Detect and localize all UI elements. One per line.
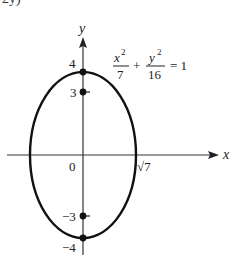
ellipse-graph: y x 0 4 3 −3 −4 √7 x 2 7 + y 2 16 = 1: [0, 0, 234, 263]
eq-y-exp: 2: [157, 47, 162, 57]
eq-x: x: [113, 50, 120, 65]
vertex-top-point: [80, 69, 87, 76]
y-axis-label: y: [77, 21, 86, 36]
x-intercept-label: √7: [137, 159, 151, 174]
y-label-neg4: −4: [62, 240, 76, 255]
y-label-3: 3: [70, 85, 77, 100]
focus-top-point: [80, 89, 87, 96]
eq-y-denom: 16: [148, 67, 162, 82]
vertex-bottom-point: [80, 235, 87, 242]
eq-equals: = 1: [170, 58, 187, 73]
eq-y: y: [147, 50, 155, 65]
ellipse-figure: 2y) y x 0 4 3 −3 −4 √7 x 2: [0, 0, 234, 263]
origin-label: 0: [69, 159, 76, 174]
y-label-neg3: −3: [62, 209, 76, 224]
y-label-4: 4: [69, 56, 76, 71]
focus-bottom-point: [80, 213, 87, 220]
eq-x-exp: 2: [121, 47, 126, 57]
eq-x-denom: 7: [117, 67, 124, 82]
eq-plus: +: [133, 58, 140, 73]
ellipse-equation: x 2 7 + y 2 16 = 1: [113, 47, 187, 82]
x-axis-label: x: [222, 147, 230, 162]
